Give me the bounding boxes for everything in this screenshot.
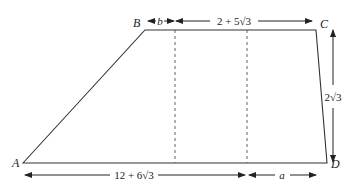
- dimension-b: b: [148, 15, 174, 27]
- vertex-label-d: D: [330, 157, 340, 171]
- vertex-label-c: C: [320, 17, 329, 31]
- dimension-height: 2√3: [324, 30, 342, 162]
- dimension-bottom-left: 12 + 6√3: [25, 169, 245, 181]
- dimension-bottom-left-label: 12 + 6√3: [114, 169, 154, 181]
- dimension-b-label: b: [157, 15, 163, 27]
- dimension-a-label: a: [279, 169, 285, 181]
- trapezoid-diagram: A B C D b 2 + 5√3 12 + 6√3 a 2√3: [0, 0, 351, 188]
- vertex-label-a: A: [11, 156, 20, 170]
- dimension-top-right: 2 + 5√3: [176, 15, 312, 27]
- dimension-top-right-label: 2 + 5√3: [217, 15, 252, 27]
- dimension-height-label: 2√3: [324, 91, 342, 103]
- vertex-label-b: B: [133, 16, 141, 30]
- dimension-a: a: [249, 169, 316, 181]
